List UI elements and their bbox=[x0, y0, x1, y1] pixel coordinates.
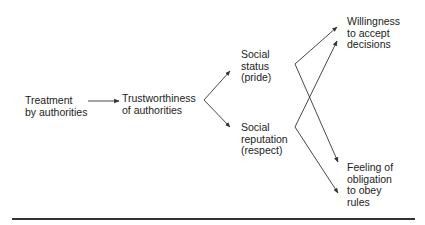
node-trust-line-1: Trustworthiness bbox=[122, 93, 196, 105]
node-willingness: Willingness to accept decisions bbox=[347, 16, 400, 51]
node-status-line-1: Social bbox=[241, 49, 271, 61]
edge-reputation-obligation bbox=[295, 127, 338, 193]
node-trust-line-2: of authorities bbox=[122, 105, 196, 117]
node-willingness-line-3: decisions bbox=[347, 39, 400, 51]
edge-reputation-willingness bbox=[295, 41, 337, 127]
node-obligation-line-4: rules bbox=[347, 197, 393, 209]
node-obligation: Feeling of obligation to obey rules bbox=[347, 162, 393, 208]
node-trustworthiness: Trustworthiness of authorities bbox=[122, 93, 196, 116]
node-treatment-line-1: Treatment bbox=[25, 95, 87, 107]
node-obligation-line-3: to obey bbox=[347, 185, 393, 197]
node-reputation-line-3: (respect) bbox=[241, 145, 288, 157]
edge-trust-status bbox=[204, 71, 230, 100]
bottom-rule-divider bbox=[12, 218, 415, 220]
node-social-reputation: Social reputation (respect) bbox=[241, 122, 288, 157]
node-treatment-line-2: by authorities bbox=[25, 107, 87, 119]
node-treatment: Treatment by authorities bbox=[25, 95, 87, 118]
node-reputation-line-1: Social bbox=[241, 122, 288, 134]
node-willingness-line-1: Willingness bbox=[347, 16, 400, 28]
edge-status-willingness bbox=[295, 27, 337, 64]
node-status-line-3: (pride) bbox=[241, 72, 271, 84]
node-social-status: Social status (pride) bbox=[241, 49, 271, 84]
edge-trust-reputation bbox=[204, 100, 230, 127]
node-obligation-line-1: Feeling of bbox=[347, 162, 393, 174]
